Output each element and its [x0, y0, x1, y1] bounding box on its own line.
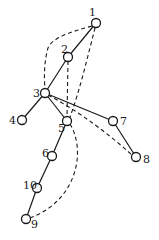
graph-diagram: 12345678910: [0, 0, 159, 240]
node-3: [41, 89, 50, 98]
node-label-7: 7: [120, 115, 127, 128]
node-label-4: 4: [9, 114, 16, 127]
node-4: [18, 116, 27, 125]
node-label-3: 3: [33, 87, 40, 100]
node-labels: 12345678910: [9, 6, 150, 231]
node-label-10: 10: [23, 179, 37, 192]
node-label-8: 8: [143, 153, 150, 166]
solid-edge-2-3: [45, 57, 68, 93]
node-7: [109, 117, 118, 126]
node-label-2: 2: [61, 43, 68, 56]
dashed-edge-5-9: [30, 124, 77, 218]
node-1: [92, 19, 101, 28]
dashed-edge-1-5: [70, 28, 95, 117]
solid-edge-3-7: [45, 93, 113, 121]
node-8: [132, 153, 141, 162]
node-9: [22, 215, 31, 224]
node-label-9: 9: [31, 218, 38, 231]
dashed-edge-2-5: [67, 61, 68, 117]
solid-edge-1-2: [68, 23, 96, 57]
node-label-6: 6: [42, 147, 49, 160]
node-label-1: 1: [89, 6, 96, 19]
node-label-5: 5: [58, 122, 65, 135]
solid-edge-6-10: [37, 156, 52, 188]
